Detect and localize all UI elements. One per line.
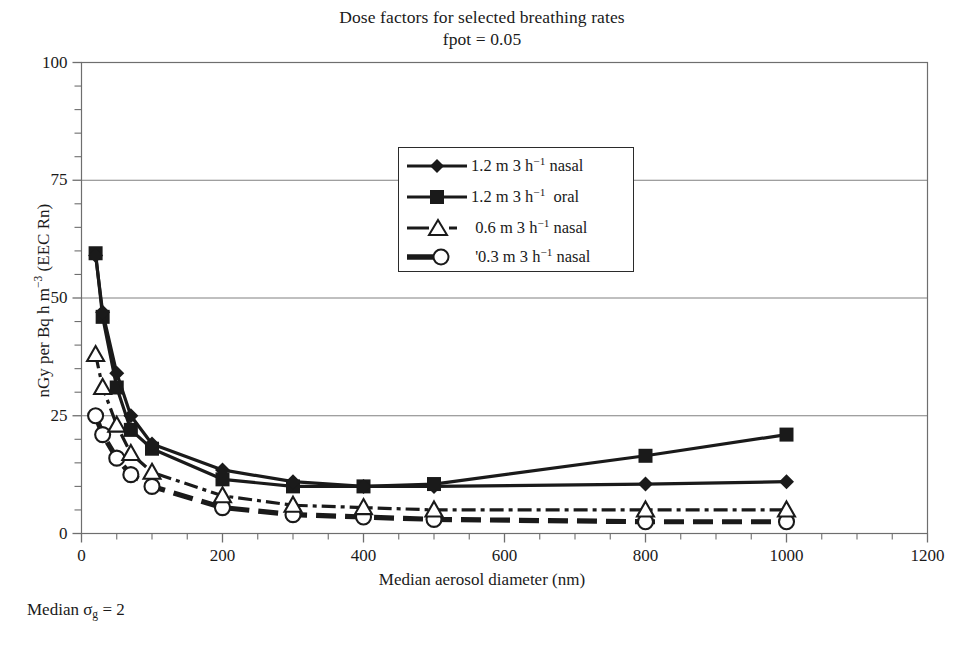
legend-sample-circle-icon (405, 244, 469, 270)
y-tick-label-50: 50 (51, 288, 68, 308)
x-tick-label-1000: 1000 (770, 546, 804, 566)
legend-label-3: '0.3 m 3 h−1 nasal (471, 246, 590, 267)
x-tick-label-200: 200 (210, 546, 236, 566)
y-tick-label-75: 75 (51, 170, 68, 190)
series-line-square (96, 253, 787, 486)
legend-sample-square-icon (405, 184, 469, 210)
legend-item-2[interactable]: 0.6 m 3 h−1 nasal (399, 212, 635, 243)
x-axis-label: Median aerosol diameter (nm) (0, 570, 964, 590)
x-tick-label-1200: 1200 (911, 546, 945, 566)
figure-footnote: Median σg = 2 (27, 600, 125, 621)
data-point-triangle (122, 445, 139, 460)
legend-label-2: 0.6 m 3 h−1 nasal (471, 217, 587, 238)
x-tick-label-400: 400 (351, 546, 377, 566)
legend-item-3[interactable]: '0.3 m 3 h−1 nasal (399, 241, 635, 272)
legend-item-0[interactable]: 1.2 m 3 h−1 nasal (399, 150, 635, 181)
data-point-square (639, 449, 653, 463)
chart-figure: Dose factors for selected breathing rate… (0, 0, 964, 645)
legend-item-1[interactable]: 1.2 m 3 h−1 oral (399, 181, 635, 212)
data-point-circle (95, 427, 110, 442)
data-point-circle (123, 467, 138, 482)
y-tick-label-25: 25 (51, 406, 68, 426)
data-point-triangle (108, 417, 125, 432)
data-point-circle (145, 479, 160, 494)
series-triangle (87, 346, 795, 516)
data-point-triangle (87, 346, 104, 361)
series-square (89, 246, 794, 493)
chart-legend: 1.2 m 3 h−1 nasal 1.2 m 3 h−1 oral 0.6 m… (398, 147, 634, 272)
legend-label-0: 1.2 m 3 h−1 nasal (471, 155, 583, 176)
data-point-circle (88, 408, 103, 423)
x-tick-label-800: 800 (633, 546, 659, 566)
data-point-circle (109, 451, 124, 466)
y-tick-label-100: 100 (42, 53, 68, 73)
legend-label-1: 1.2 m 3 h−1 oral (471, 186, 579, 207)
data-point-diamond (779, 474, 794, 489)
x-tick-label-0: 0 (77, 546, 86, 566)
data-point-square (124, 423, 138, 437)
y-tick-label-0: 0 (59, 524, 68, 544)
data-point-diamond (638, 477, 653, 492)
plot-canvas (0, 0, 964, 645)
legend-sample-diamond-icon (405, 153, 469, 179)
data-point-square (780, 428, 794, 442)
x-tick-label-600: 600 (492, 546, 518, 566)
legend-sample-triangle-icon (405, 215, 469, 241)
data-point-triangle (94, 379, 111, 394)
series-diamond (88, 248, 794, 494)
